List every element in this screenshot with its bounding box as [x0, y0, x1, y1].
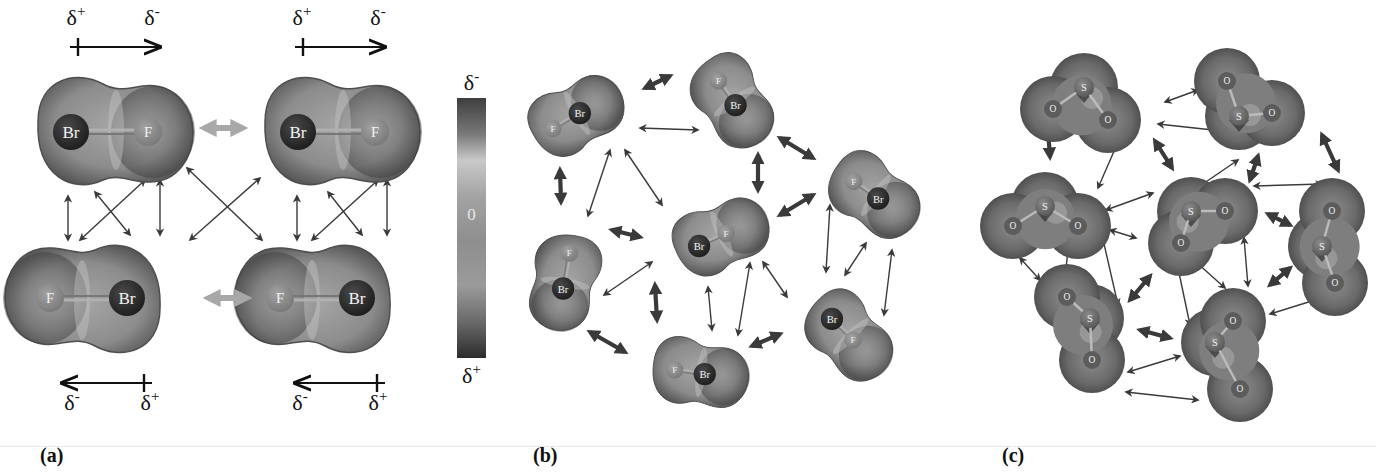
intermolecular-interaction-arrow: [780, 195, 813, 215]
intermolecular-interaction-arrow: [604, 262, 652, 295]
intermolecular-interaction-arrow: [190, 178, 260, 240]
divider-line: [0, 446, 1376, 447]
intermolecular-interaction-arrow: [752, 334, 780, 346]
atom-symbol-br: Br: [699, 369, 710, 380]
atom-symbol-o: O: [1230, 316, 1237, 326]
intermolecular-interaction-arrow: [1244, 238, 1248, 286]
delta-plus-label: δ+: [67, 3, 86, 30]
intermolecular-interaction-arrow: [884, 250, 892, 315]
intermolecular-interaction-arrow: [312, 180, 378, 240]
figure-canvas: δ+δ-δ+δ-δ+δ-δ+δ-BrFBrFBrFBrF δ-0δ+ FBrFB…: [0, 0, 1376, 476]
dipole-moment-arrow: δ+δ-: [62, 374, 159, 415]
atom-symbol-o: O: [1329, 206, 1336, 216]
intermolecular-interaction-arrow: [590, 332, 625, 352]
atom-symbol-o: O: [1237, 384, 1244, 394]
color-scale-bar: [457, 98, 486, 358]
atom-symbol-br: Br: [558, 284, 569, 295]
intermolecular-interaction-arrow: [738, 263, 750, 335]
intermolecular-interaction-arrow: [80, 180, 145, 240]
delta-plus-label: δ+: [141, 388, 160, 415]
atom-symbol-o: O: [1178, 238, 1185, 248]
atom-symbol-f: F: [46, 290, 54, 306]
panel-c-so2-liquid: SOOSOOSOOSOOSOOSOOSOO: [980, 48, 1368, 422]
panel-label-c: (c): [1002, 444, 1024, 467]
intermolecular-interaction-arrow: [645, 76, 670, 88]
atom-symbol-f: F: [567, 248, 572, 258]
intermolecular-interaction-arrow: [1128, 356, 1180, 372]
panel-b-brf-liquid: FBrFBrBrFFBrFBrBrFFBr: [519, 43, 935, 413]
so2-molecule: SOO: [980, 172, 1111, 259]
atom-symbol-o: O: [1050, 104, 1057, 114]
intermolecular-interaction-arrow: [1165, 90, 1198, 102]
intermolecular-interaction-arrow: [1268, 214, 1290, 225]
intermolecular-interaction-arrow: [763, 262, 787, 297]
atom-symbol-br: Br: [694, 241, 705, 252]
atom-symbol-br: Br: [62, 123, 79, 142]
delta-minus-label: δ-: [64, 388, 79, 415]
intermolecular-interaction-arrow: [1140, 330, 1170, 338]
atom-symbol-f: F: [550, 124, 555, 134]
atom-symbol-o: O: [1222, 206, 1229, 216]
intermolecular-interaction-arrow: [1110, 230, 1136, 238]
intermolecular-interaction-arrow: [1250, 156, 1258, 180]
dipole-moment-arrow: δ+δ-: [293, 3, 386, 56]
atom-symbol-s: S: [1087, 313, 1093, 324]
intermolecular-interaction-arrow: [1178, 268, 1190, 325]
intermolecular-interaction-arrow: [708, 287, 712, 330]
scale-label-positive: δ+: [462, 361, 481, 388]
atom-symbol-o: O: [1075, 221, 1082, 231]
atom-symbol-br: Br: [730, 100, 741, 111]
atom-symbol-o: O: [1224, 76, 1231, 86]
atom-symbol-f: F: [371, 124, 379, 140]
atom-symbol-br: Br: [289, 123, 306, 142]
intermolecular-interaction-arrow: [1106, 193, 1153, 210]
intermolecular-interaction-arrow: [655, 285, 657, 320]
intermolecular-interaction-arrow: [1270, 268, 1290, 285]
atom-symbol-f: F: [672, 365, 677, 375]
so2-molecule: SOO: [1194, 48, 1305, 150]
atom-symbol-f: F: [851, 177, 856, 187]
atom-symbol-o: O: [1064, 292, 1071, 302]
panel-label-b: (b): [533, 444, 557, 467]
atom-symbol-s: S: [1188, 206, 1194, 217]
so2-molecule: SOO: [1181, 288, 1273, 422]
panel-label-a: (a): [40, 444, 63, 467]
delta-minus-label: δ-: [144, 3, 159, 30]
atom-symbol-s: S: [1319, 241, 1325, 252]
atom-symbol-f: F: [724, 229, 729, 239]
intermolecular-interaction-arrow: [187, 168, 262, 240]
atom-symbol-f: F: [850, 335, 855, 345]
intermolecular-interaction-arrow: [780, 138, 813, 158]
electrostatic-color-scale: δ-0δ+: [457, 68, 486, 388]
scale-label-negative: δ-: [464, 68, 479, 95]
intermolecular-interaction-arrow: [1322, 135, 1338, 170]
atom-symbol-f: F: [144, 124, 152, 140]
panel-a-brf-dipole-pairs: δ+δ-δ+δ-δ+δ-δ+δ-BrFBrFBrFBrF: [3, 3, 422, 415]
dipole-moment-arrow: δ+δ-: [292, 374, 387, 415]
intermolecular-interaction-arrow: [588, 150, 610, 216]
delta-plus-label: δ+: [369, 388, 388, 415]
atom-symbol-br: Br: [873, 194, 884, 205]
atom-symbol-s: S: [1212, 337, 1218, 348]
delta-plus-label: δ+: [293, 3, 312, 30]
intermolecular-interaction-arrow: [625, 150, 662, 205]
intermolecular-interaction-arrow: [640, 128, 698, 130]
so2-molecule: SOO: [1288, 178, 1368, 316]
atom-symbol-s: S: [1236, 111, 1242, 122]
scale-label-zero: 0: [467, 205, 476, 224]
intermolecular-interaction-arrow: [1130, 276, 1150, 300]
delta-minus-label: δ-: [370, 3, 385, 30]
atom-symbol-o: O: [1332, 278, 1339, 288]
so2-molecule: SOO: [1034, 264, 1125, 393]
atom-symbol-br: Br: [827, 314, 838, 325]
atom-symbol-br: Br: [118, 289, 135, 308]
intermolecular-interaction-arrow: [826, 205, 830, 272]
atom-symbol-o: O: [1105, 115, 1112, 125]
atom-symbol-o: O: [1010, 221, 1017, 231]
dipole-moment-arrow: δ+δ-: [67, 3, 160, 56]
intermolecular-interaction-arrow: [560, 170, 561, 202]
atom-symbol-f: F: [716, 76, 721, 86]
atom-symbol-s: S: [1081, 82, 1087, 93]
so2-molecule: SOO: [1020, 53, 1141, 153]
atom-symbol-br: Br: [575, 108, 586, 119]
